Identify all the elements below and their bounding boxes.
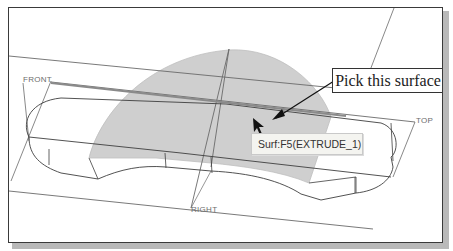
model-scene[interactable]	[9, 8, 443, 243]
datum-label-top: TOP	[416, 116, 433, 125]
highlighted-surface	[89, 50, 331, 183]
instruction-callout: Pick this surface	[332, 68, 443, 93]
surface-tooltip: Surf:F5(EXTRUDE_1)	[251, 133, 363, 155]
graphics-viewport[interactable]: FRONT TOP RIGHT Pick this surface Surf:F…	[8, 7, 443, 243]
datum-label-front: FRONT	[23, 75, 52, 84]
datum-label-right: RIGHT	[191, 205, 217, 214]
